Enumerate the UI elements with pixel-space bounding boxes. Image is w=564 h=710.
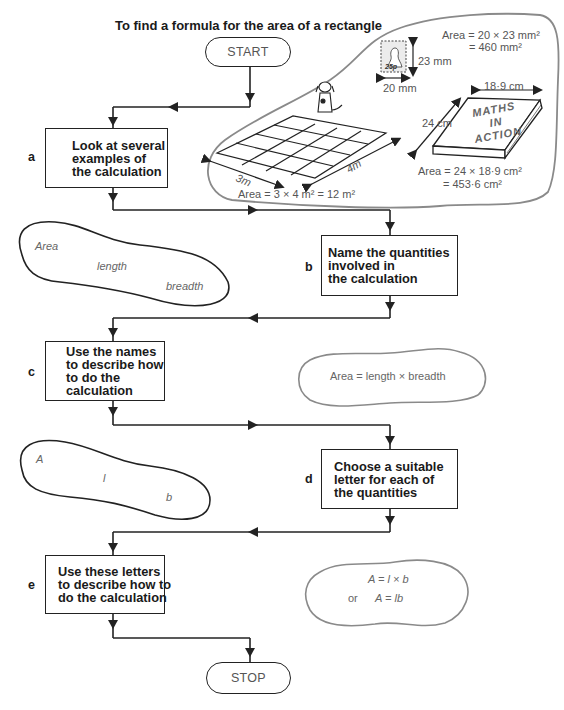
start-label: START [227,45,268,59]
letters-formula-1: A = l × b [368,573,409,585]
dog-illustration [316,82,342,112]
step-d-box: Choose a suitable letter for each of the… [321,449,458,509]
stamp-width-label: 20 mm [383,82,417,94]
stop-label: STOP [231,671,266,685]
letters-formula-or: or [348,592,358,604]
letters-blob-A: A [36,453,43,465]
names-formula: Area = length × breadth [330,370,446,382]
stamp-area-line2: = 460 mm² [469,41,522,53]
step-c-box: Use the names to describe how to do the … [45,341,165,401]
step-b-box: Name the quantities involved in the calc… [321,235,458,296]
step-a-line: the calculation [72,165,167,178]
step-a-line: examples of [72,152,167,165]
letters-blob-l: l [103,472,105,484]
step-e-letter: e [28,578,35,592]
step-e-box: Use these letters to describe how to do … [45,555,165,614]
book-height-label: 24 cm [422,117,452,129]
step-e-line: do the calculation [58,591,164,604]
stamp-area-line1: Area = 20 × 23 mm² [442,29,540,41]
names-blob-breadth: breadth [166,280,203,292]
letters-blob [21,441,210,520]
letters-formula-2: A = lb [375,592,403,604]
page-title: To find a formula for the area of a rect… [115,18,382,33]
stamp-height-label: 23 mm [418,55,452,67]
letters-blob-b: b [166,491,172,503]
step-a-box: Look at several examples of the calculat… [45,128,168,188]
step-d-letter: d [305,472,313,486]
book-area-line1: Area = 24 × 18·9 cm² [418,165,522,177]
book-width-label: 18·9 cm [484,80,524,92]
floor-area: Area = 3 × 4 m² = 12 m² [238,188,355,200]
names-blob-length: length [97,260,127,272]
stop-terminal: STOP [206,662,291,694]
step-a-letter: a [28,150,35,164]
step-d-line: the quantities [334,486,457,499]
start-terminal: START [205,37,291,67]
step-d-line: letter for each of [334,473,457,486]
step-c-letter: c [28,365,35,379]
step-b-letter: b [305,260,313,274]
step-a-line: Look at several [72,139,167,152]
step-d-line: Choose a suitable [334,460,457,473]
step-b-line: the calculation [328,272,457,285]
step-c-line: calculation [66,384,164,397]
names-blob-area: Area [35,240,58,252]
stamp-value-label: 25p [385,63,397,70]
book-area-line2: = 453·6 cm² [443,178,502,190]
